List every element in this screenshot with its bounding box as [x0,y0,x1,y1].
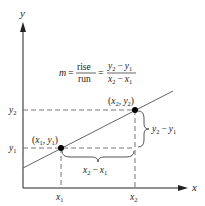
y-axis-label: y [19,7,25,19]
svg-text:x2−x1: x2−x1 [107,74,132,85]
run-label: x2−x1 [82,165,107,176]
rise-brace-icon [138,111,149,147]
point-2 [132,107,138,113]
svg-text:m: m [59,67,66,78]
svg-text:run: run [78,74,91,84]
svg-text:=: = [98,67,104,78]
x-axis [23,185,188,191]
point-1-label: (x1, y1) [32,135,58,146]
x-axis-label: x [191,181,197,193]
y-axis-arrow-icon [20,22,26,32]
rise-label: y2−y1 [151,124,176,135]
slope-diagram: y x m = rise run = y2−y1 x2−x1 (x1, y1) … [0,0,205,206]
point-2-label: (x2, y2) [108,96,134,107]
diagram-canvas: y x m = rise run = y2−y1 x2−x1 (x1, y1) … [0,0,205,206]
x-axis-arrow-icon [178,185,188,191]
svg-text:rise: rise [77,62,91,72]
slope-formula: m = rise run = y2−y1 x2−x1 [59,61,136,85]
svg-text:y2−y1: y2−y1 [107,61,132,72]
y2-tick-label: y2 [8,105,16,116]
svg-text:=: = [68,67,74,78]
dashed-guides [23,110,135,188]
x1-tick-label: x1 [55,192,63,203]
x2-tick-label: x2 [129,192,137,203]
point-1 [58,145,64,151]
sloped-line [23,91,173,168]
run-brace-icon [62,151,134,162]
y-axis [20,22,26,188]
y1-tick-label: y1 [8,143,16,154]
